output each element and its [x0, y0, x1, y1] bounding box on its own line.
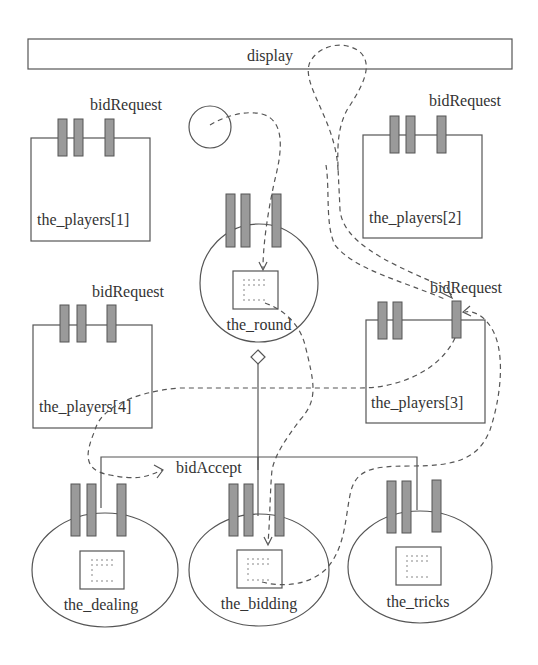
- diagram-canvas: display bidRequest the_players[1] bidReq…: [0, 0, 538, 665]
- player-2-port-label: bidRequest: [429, 92, 502, 110]
- port-icon: [402, 481, 411, 533]
- port-icon: [58, 119, 67, 156]
- port-icon: [226, 194, 235, 247]
- tricks-label: the_tricks: [386, 593, 449, 610]
- task-body-icon: [80, 551, 124, 589]
- port-icon: [229, 484, 238, 536]
- player-4-port-label: bidRequest: [92, 283, 165, 301]
- port-icon: [71, 484, 80, 536]
- player-1-port-label: bidRequest: [90, 96, 163, 114]
- display-object: display: [28, 39, 512, 69]
- player-4-box: bidRequest the_players[4]: [33, 283, 165, 428]
- port-icon: [74, 119, 83, 156]
- port-icon: [241, 194, 250, 247]
- task-body-icon: [233, 271, 278, 309]
- bid-accept-label: bidAccept: [176, 459, 242, 477]
- arrowhead-icon: [154, 465, 163, 478]
- round-label: the_round: [227, 316, 292, 333]
- port-icon: [107, 305, 116, 342]
- player-4-label: the_players[4]: [39, 398, 131, 416]
- port-icon: [87, 484, 96, 536]
- dealing-node: the_dealing: [32, 484, 178, 627]
- task-body-icon: [396, 547, 441, 585]
- player-1-box: bidRequest the_players[1]: [31, 96, 163, 241]
- bidding-node: the_bidding: [189, 484, 329, 626]
- player-1-label: the_players[1]: [37, 211, 129, 229]
- port-icon: [117, 484, 126, 536]
- arrowhead-icon: [259, 262, 267, 270]
- port-icon: [105, 119, 114, 156]
- tricks-node: the_tricks: [348, 480, 492, 623]
- port-icon: [275, 484, 284, 536]
- port-icon: [77, 305, 86, 342]
- player-3-label: the_players[3]: [371, 394, 463, 412]
- port-icon: [452, 301, 461, 338]
- dot-grid-icon: [91, 559, 113, 582]
- port-icon: [393, 302, 402, 339]
- port-icon: [244, 484, 253, 536]
- start-node-icon: [189, 106, 231, 148]
- player-3-port-label: bidRequest: [430, 279, 503, 297]
- dot-grid-icon: [406, 555, 428, 578]
- port-icon: [406, 116, 415, 153]
- player-2-box: bidRequest the_players[2]: [363, 92, 502, 238]
- task-body-icon: [237, 550, 282, 588]
- player-2-label: the_players[2]: [369, 209, 461, 227]
- port-icon: [378, 302, 387, 339]
- aggregation-diamond-icon: [251, 350, 265, 364]
- round-node: the_round: [200, 194, 318, 342]
- port-icon: [387, 481, 396, 533]
- dealing-label: the_dealing: [64, 596, 139, 614]
- port-icon: [272, 194, 281, 247]
- dot-grid-icon: [247, 558, 269, 581]
- port-icon: [390, 116, 399, 153]
- bidding-label: the_bidding: [221, 595, 297, 613]
- arrowhead-icon: [463, 306, 471, 316]
- port-icon: [437, 116, 446, 153]
- port-icon: [60, 305, 69, 342]
- display-label: display: [247, 47, 293, 65]
- port-icon: [432, 480, 441, 532]
- player-3-box: bidRequest the_players[3]: [366, 279, 503, 423]
- dot-grid-icon: [243, 279, 265, 301]
